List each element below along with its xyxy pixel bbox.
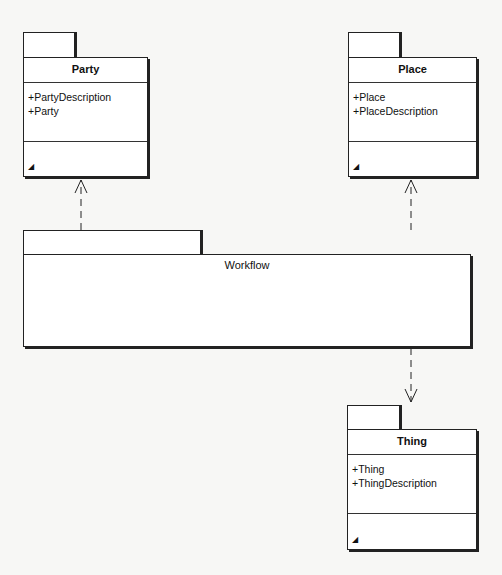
attribute-compartment: +PartyDescription +Party	[24, 83, 147, 142]
package-title: Thing	[348, 430, 476, 455]
package-tab	[23, 230, 201, 255]
operation-compartment: ◢	[348, 514, 476, 550]
package-title: Workflow	[24, 255, 470, 271]
attribute[interactable]: +Party	[28, 104, 147, 118]
operation-icon: ◢	[352, 536, 358, 544]
package-body: Place +Place +PlaceDescription ◢	[348, 57, 477, 177]
operation-icon: ◢	[28, 163, 34, 171]
package-title: Place	[349, 58, 476, 83]
attribute[interactable]: +ThingDescription	[352, 476, 476, 490]
package-title: Party	[24, 58, 147, 83]
attribute-compartment: +Thing +ThingDescription	[348, 455, 476, 514]
package-body: Party +PartyDescription +Party ◢	[23, 57, 148, 177]
attribute[interactable]: +PartyDescription	[28, 90, 147, 104]
attribute[interactable]: +PlaceDescription	[353, 104, 476, 118]
package-body: Workflow	[23, 254, 471, 347]
attribute-compartment: +Place +PlaceDescription	[349, 83, 476, 142]
attribute[interactable]: +Place	[353, 90, 476, 104]
package-tab	[23, 32, 75, 58]
operation-icon: ◢	[353, 163, 359, 171]
operation-compartment: ◢	[24, 142, 147, 177]
attribute[interactable]: +Thing	[352, 462, 476, 476]
package-tab	[347, 405, 400, 430]
package-tab	[348, 32, 400, 58]
package-body: Thing +Thing +ThingDescription ◢	[347, 429, 477, 550]
operation-compartment: ◢	[349, 142, 476, 177]
